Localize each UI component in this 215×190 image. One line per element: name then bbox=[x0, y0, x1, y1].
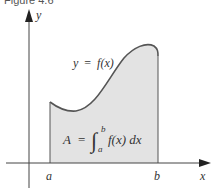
bound-label-b: b bbox=[154, 169, 160, 183]
y-axis-arrow-icon bbox=[25, 9, 33, 22]
integral-upper-limit: b bbox=[101, 124, 106, 134]
x-axis-arrow-icon bbox=[199, 159, 211, 167]
svg-text:A =: A = bbox=[62, 132, 85, 147]
x-axis-label: x bbox=[199, 169, 206, 183]
curve-label: y = f(x) bbox=[72, 56, 114, 70]
bound-label-a: a bbox=[46, 169, 52, 183]
area-under-curve-diagram: y x a b y = f(x) A = ∫ b a f(x) dx bbox=[0, 0, 215, 190]
integral-lower-limit: a bbox=[98, 144, 103, 154]
integrand: f(x) dx bbox=[108, 132, 142, 147]
y-axis-label: y bbox=[35, 8, 42, 22]
